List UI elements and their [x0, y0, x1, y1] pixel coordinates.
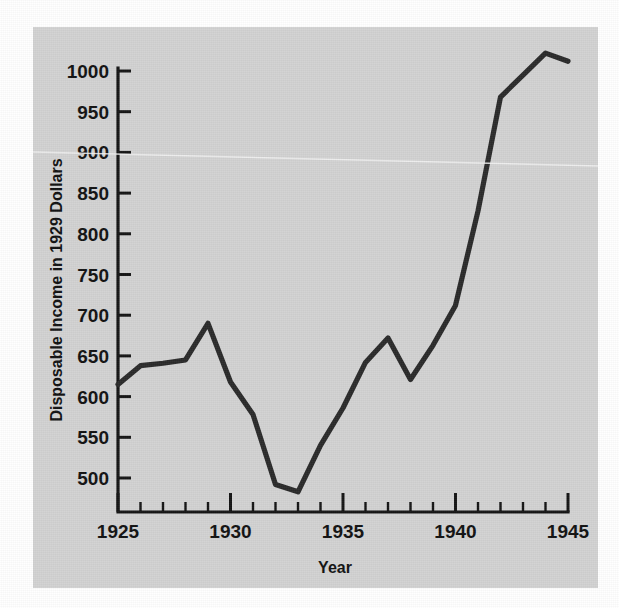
- x-tick-label: 1940: [434, 521, 476, 542]
- figure-root: 5005506006507007508008509009501000 19251…: [0, 0, 619, 608]
- y-tick-label: 600: [77, 387, 109, 408]
- x-tick-label: 1930: [209, 521, 251, 542]
- x-tick-label: 1925: [97, 521, 140, 542]
- y-axis-title: Disposable Income in 1929 Dollars: [48, 158, 65, 421]
- y-tick-label: 750: [77, 265, 109, 286]
- y-tick-label: 700: [77, 305, 109, 326]
- y-axis-ticks: [118, 71, 131, 478]
- y-tick-label: 850: [77, 183, 109, 204]
- y-tick-label: 950: [77, 102, 109, 123]
- y-tick-label: 550: [77, 427, 109, 448]
- line-chart: 5005506006507007508008509009501000 19251…: [0, 0, 619, 608]
- x-tick-label: 1935: [322, 521, 365, 542]
- data-series-line: [118, 53, 568, 492]
- x-axis-tick-labels: 19251930193519401945: [97, 521, 590, 542]
- x-axis-title: Year: [318, 559, 352, 576]
- axis-spines: [118, 68, 568, 512]
- y-tick-label: 800: [77, 224, 109, 245]
- y-tick-label: 650: [77, 346, 109, 367]
- y-tick-label: 500: [77, 468, 109, 489]
- y-tick-label: 1000: [67, 61, 109, 82]
- x-tick-label: 1945: [547, 521, 590, 542]
- y-axis-tick-labels: 5005506006507007508008509009501000: [67, 61, 109, 489]
